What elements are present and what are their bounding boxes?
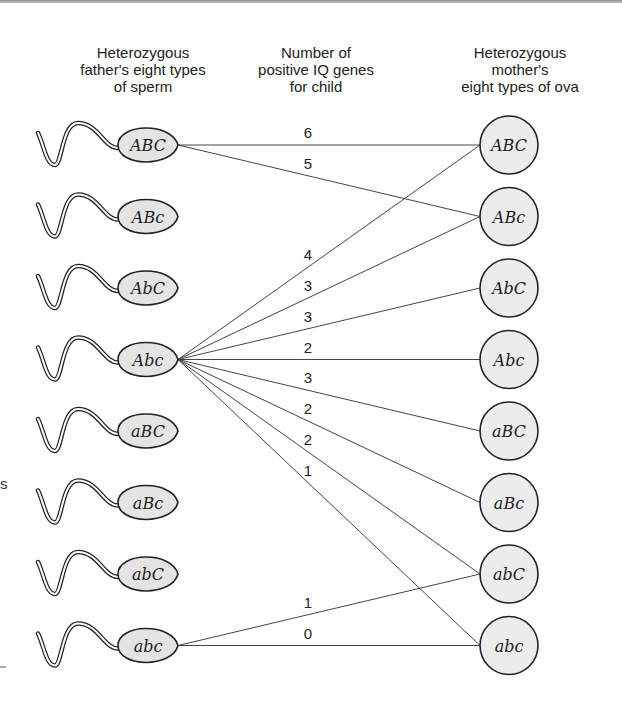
ovum-genotype-label: abc [495, 637, 524, 656]
sperm-genotype-label: aBC [131, 422, 165, 441]
ovum-abc: abc [480, 617, 538, 675]
sperm-tail-outline [38, 266, 118, 308]
sperm-AbC: AbC [38, 266, 178, 308]
connection-line [178, 288, 480, 360]
ovum-genotype-label: ABC [489, 136, 527, 155]
gene-count-label: 5 [304, 155, 312, 172]
gene-count-label: 1 [304, 594, 312, 611]
sperm-genotype-label: abC [132, 565, 164, 584]
connection-line [178, 574, 480, 646]
gene-count-label: 2 [304, 431, 312, 448]
sperm-genotype-label: ABc [130, 208, 164, 227]
connection-line [178, 145, 480, 360]
connection-line [178, 360, 480, 646]
inheritance-diagram: ABCABcAbCAbcaBCaBcabCabc ABCABcAbCAbcaBC… [0, 0, 622, 708]
sperm-genotype-label: Abc [131, 351, 164, 370]
ovum-genotype-label: Abc [492, 351, 525, 370]
sperm-tail-outline [38, 624, 118, 666]
ovum-abC: abC [480, 545, 538, 603]
sperm-ABc: ABc [38, 195, 178, 237]
sperm-abc: abc [38, 624, 178, 666]
sperm-tail-outline [38, 123, 118, 165]
sperm-genotype-label: aBc [133, 494, 163, 513]
sperm-tail-outline [38, 481, 118, 523]
sperm-genotype-label: abc [134, 637, 163, 656]
sperm-tail-outline [38, 409, 118, 451]
sperm-genotype-label: ABC [128, 136, 166, 155]
connection-line [178, 145, 480, 217]
gene-count-label: 4 [304, 246, 312, 263]
gene-count-label: 2 [304, 339, 312, 356]
ovum-Abc: Abc [480, 331, 538, 389]
sperm-Abc: Abc [38, 338, 178, 380]
ovum-genotype-label: AbC [490, 279, 526, 298]
gene-count-label: 1 [304, 462, 312, 479]
sperm-tail-outline [38, 195, 118, 237]
connection-line [178, 360, 480, 503]
ovum-genotype-label: aBc [494, 494, 524, 513]
ovum-AbC: AbC [480, 259, 538, 317]
ovum-genotype-label: abC [493, 565, 525, 584]
sperm-aBC: aBC [38, 409, 178, 451]
sperm-aBc: aBc [38, 481, 178, 523]
ova-column: ABCABcAbCAbcaBCaBcabCabc [480, 116, 538, 675]
ovum-aBC: aBC [480, 402, 538, 460]
gene-count-label: 6 [304, 124, 312, 141]
gene-count-label: 2 [304, 400, 312, 417]
sperm-tail-outline [38, 552, 118, 594]
ovum-aBc: aBc [480, 474, 538, 532]
ovum-genotype-label: aBC [492, 422, 526, 441]
sperm-genotype-label: AbC [129, 279, 165, 298]
gene-count-label: 3 [304, 308, 312, 325]
connection-line [178, 217, 480, 360]
connection-lines [178, 145, 480, 646]
connection-line [178, 360, 480, 432]
edge-fragment-text: s [0, 475, 8, 492]
gene-count-labels: 654332322110 [304, 124, 312, 642]
sperm-ABC: ABC [38, 123, 178, 165]
gene-count-label: 0 [304, 625, 312, 642]
gene-count-label: 3 [304, 369, 312, 386]
ovum-ABc: ABc [480, 188, 538, 246]
sperm-column: ABCABcAbCAbcaBCaBcabCabc [38, 123, 178, 666]
connection-line [178, 360, 480, 575]
sperm-abC: abC [38, 552, 178, 594]
ovum-ABC: ABC [480, 116, 538, 174]
gene-count-label: 3 [304, 277, 312, 294]
ovum-genotype-label: ABc [491, 208, 525, 227]
sperm-tail-outline [38, 338, 118, 380]
